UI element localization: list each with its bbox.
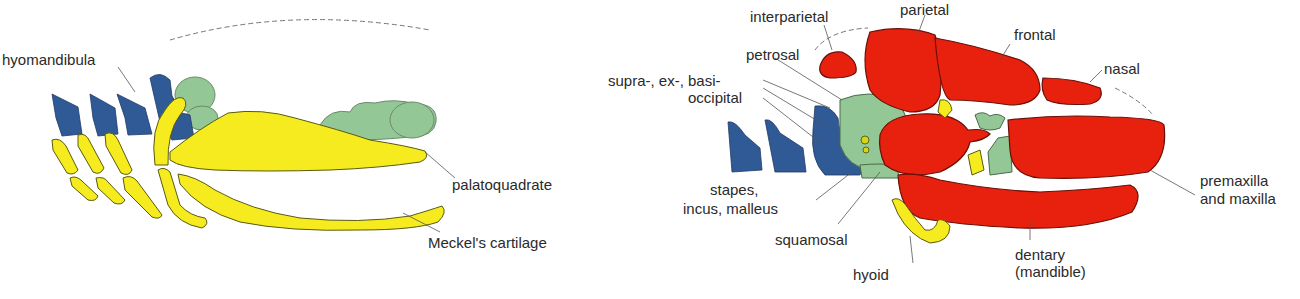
label-squamosal: squamosal [775, 231, 848, 248]
label-stapes-line1: stapes, [710, 181, 758, 198]
label-petrosal: petrosal [746, 46, 799, 63]
label-premaxilla-line1: premaxilla [1200, 172, 1269, 189]
hyomandibula-leader [118, 67, 135, 92]
fish-jaw-panel: hyomandibula palatoquadrate Meckel's car… [2, 20, 552, 251]
label-palatoquadrate: palatoquadrate [452, 176, 552, 193]
label-interparietal: interparietal [750, 8, 828, 25]
label-meckels-cartilage: Meckel's cartilage [428, 234, 547, 251]
mammal-skull-panel: interparietal parietal frontal nasal pet… [608, 1, 1277, 283]
dentary-shape [898, 174, 1138, 228]
label-premaxilla-line2: and maxilla [1200, 190, 1277, 207]
maxilla-shape [1008, 116, 1165, 178]
label-dentary-line2: (mandible) [1015, 263, 1086, 280]
label-dentary-line1: dentary [1015, 246, 1066, 263]
nasal-shape [1042, 78, 1101, 105]
interparietal-shape [820, 52, 857, 78]
label-occipital-line2: occipital [688, 89, 742, 106]
label-parietal: parietal [900, 1, 949, 18]
palatoquadrate-leader [425, 152, 455, 178]
label-nasal: nasal [1104, 60, 1140, 77]
frontal-shape [935, 38, 1040, 105]
jaw-evolution-diagram: hyomandibula palatoquadrate Meckel's car… [0, 0, 1300, 299]
label-hyomandibula: hyomandibula [2, 51, 96, 68]
head-outline [170, 20, 430, 40]
meckels-shape [178, 174, 444, 230]
label-stapes-line2: incus, malleus [683, 200, 778, 217]
label-occipital-line1: supra-, ex-, basi- [608, 72, 721, 89]
label-hyoid: hyoid [853, 266, 889, 283]
label-frontal: frontal [1014, 26, 1056, 43]
